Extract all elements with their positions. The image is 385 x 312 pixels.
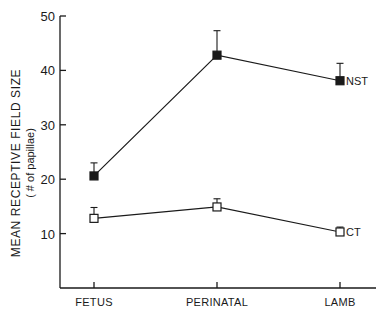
- series-label: NST: [346, 75, 368, 87]
- y-tick-label: 30: [41, 118, 55, 133]
- series-nst: NST: [90, 31, 368, 180]
- y-axis: 1020304050: [41, 9, 66, 288]
- filled-square-marker: [90, 172, 98, 180]
- open-square-marker: [336, 228, 344, 236]
- line-chart: 1020304050 FETUSPERINATALLAMB MEAN RECEP…: [0, 0, 385, 312]
- y-tick-label: 40: [41, 63, 55, 78]
- series-ct: CT: [90, 199, 361, 239]
- series-group: NSTCT: [90, 31, 368, 239]
- x-axis: FETUSPERINATALLAMB: [60, 282, 376, 308]
- y-axis-subtitle: ( # of papillae): [24, 128, 36, 198]
- y-axis-title: MEAN RECEPTIVE FIELD SIZE: [9, 69, 23, 257]
- x-tick-label: PERINATAL: [186, 296, 248, 308]
- open-square-marker: [213, 203, 221, 211]
- y-tick-label: 50: [41, 9, 55, 24]
- filled-square-marker: [336, 77, 344, 85]
- open-square-marker: [90, 214, 98, 222]
- series-label: CT: [346, 226, 361, 238]
- y-axis-label: MEAN RECEPTIVE FIELD SIZE ( # of papilla…: [9, 69, 36, 257]
- filled-square-marker: [213, 51, 221, 59]
- series-line: [94, 55, 340, 176]
- x-tick-label: LAMB: [324, 296, 355, 308]
- x-tick-label: FETUS: [75, 296, 113, 308]
- y-tick-label: 20: [41, 172, 55, 187]
- y-tick-label: 10: [41, 227, 55, 242]
